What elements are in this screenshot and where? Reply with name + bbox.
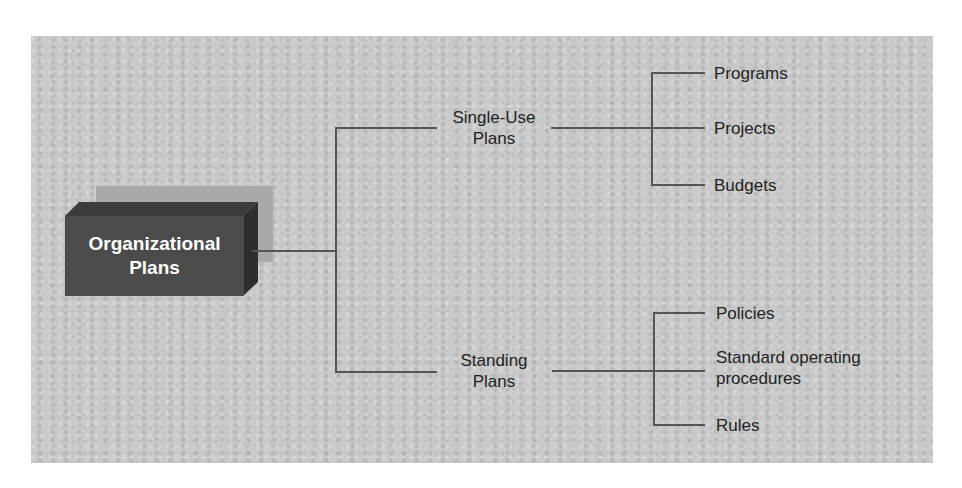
bracket-programs bbox=[651, 72, 705, 74]
single-use-bracket bbox=[651, 72, 653, 186]
bracket-rules bbox=[653, 424, 705, 426]
single-use-connector bbox=[551, 127, 705, 129]
bracket-budgets bbox=[651, 184, 705, 186]
sop-line2: procedures bbox=[716, 368, 861, 389]
standing-line2: Plans bbox=[437, 371, 551, 392]
root-label-line1: Organizational bbox=[89, 232, 221, 256]
trunk-vertical bbox=[335, 127, 337, 373]
root-node-organizational-plans: Organizational Plans bbox=[65, 216, 244, 296]
branch-single-use-plans: Single-Use Plans bbox=[437, 107, 551, 149]
connector-root bbox=[252, 250, 337, 252]
leaf-budgets: Budgets bbox=[714, 175, 776, 196]
trunk-to-single-use bbox=[335, 127, 437, 129]
standing-line1: Standing bbox=[437, 350, 551, 371]
bracket-policies bbox=[653, 312, 705, 314]
standing-bracket bbox=[653, 312, 655, 426]
single-use-line2: Plans bbox=[437, 128, 551, 149]
trunk-to-standing bbox=[335, 371, 437, 373]
standing-connector bbox=[552, 370, 705, 372]
root-box-top-bevel bbox=[65, 202, 258, 216]
leaf-programs: Programs bbox=[714, 63, 788, 84]
sop-line1: Standard operating bbox=[716, 347, 861, 368]
root-label-line2: Plans bbox=[89, 256, 221, 280]
leaf-policies: Policies bbox=[716, 303, 775, 324]
single-use-line1: Single-Use bbox=[437, 107, 551, 128]
leaf-standard-operating-procedures: Standard operating procedures bbox=[716, 347, 861, 389]
leaf-projects: Projects bbox=[714, 118, 775, 139]
branch-standing-plans: Standing Plans bbox=[437, 350, 551, 392]
leaf-rules: Rules bbox=[716, 415, 759, 436]
root-box-side bbox=[243, 202, 258, 296]
